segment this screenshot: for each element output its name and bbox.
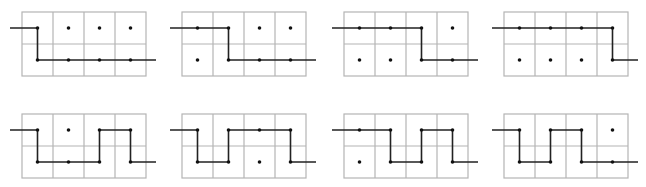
cell-center-dot [389,58,393,62]
cell-center-dot [289,58,293,62]
cell-center-dot [451,128,455,132]
grid-panel-2 [170,12,316,76]
cell-center-dot [611,160,615,164]
lattice-path-diagram [0,0,646,187]
grid-panel-3 [332,12,478,76]
cell-center-dot [289,26,293,30]
grid-panel-6 [170,114,316,178]
cell-center-dot [67,58,71,62]
cell-center-dot [129,26,133,30]
cell-center-dot [420,128,424,132]
cell-center-dot [518,58,522,62]
cell-center-dot [389,160,393,164]
cell-center-dot [389,128,393,132]
cell-center-dot [611,58,615,62]
cell-center-dot [580,26,584,30]
cell-center-dot [227,160,231,164]
cell-center-dot [518,128,522,132]
cell-center-dot [358,26,362,30]
cell-center-dot [549,58,553,62]
grid-panel-4 [492,12,638,76]
cell-center-dot [580,128,584,132]
cell-center-dot [611,26,615,30]
cell-center-dot [518,26,522,30]
cell-center-dot [549,128,553,132]
cell-center-dot [580,160,584,164]
grid-panel-7 [332,114,478,178]
cell-center-dot [420,26,424,30]
cell-center-dot [389,26,393,30]
cell-center-dot [36,160,40,164]
cell-center-dot [129,128,133,132]
grid-panel-1 [10,12,156,76]
cell-center-dot [451,26,455,30]
cell-center-dot [420,58,424,62]
grid-panel-8 [492,114,638,178]
cell-center-dot [98,160,102,164]
cell-center-dot [549,26,553,30]
cell-center-dot [227,26,231,30]
cell-center-dot [258,58,262,62]
cell-center-dot [36,128,40,132]
cell-center-dot [196,128,200,132]
cell-center-dot [549,160,553,164]
cell-center-dot [36,58,40,62]
cell-center-dot [580,58,584,62]
grid-panel-5 [10,114,156,178]
cell-center-dot [289,128,293,132]
cell-center-dot [358,160,362,164]
cell-center-dot [98,26,102,30]
cell-center-dot [258,26,262,30]
cell-center-dot [420,160,424,164]
cell-center-dot [227,58,231,62]
cell-center-dot [358,58,362,62]
cell-center-dot [129,58,133,62]
cell-center-dot [258,160,262,164]
cell-center-dot [196,26,200,30]
cell-center-dot [196,160,200,164]
cell-center-dot [227,128,231,132]
cell-center-dot [67,160,71,164]
cell-center-dot [98,128,102,132]
cell-center-dot [129,160,133,164]
cell-center-dot [98,58,102,62]
cell-center-dot [258,128,262,132]
cell-center-dot [196,58,200,62]
cell-center-dot [67,26,71,30]
cell-center-dot [358,128,362,132]
cell-center-dot [289,160,293,164]
cell-center-dot [611,128,615,132]
cell-center-dot [518,160,522,164]
cell-center-dot [36,26,40,30]
cell-center-dot [67,128,71,132]
cell-center-dot [451,160,455,164]
cell-center-dot [451,58,455,62]
